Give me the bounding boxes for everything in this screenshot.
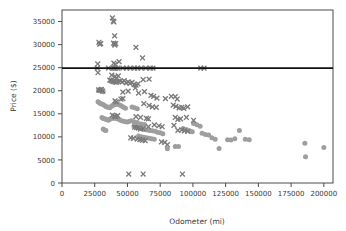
data-point-circle — [232, 136, 237, 141]
y-tick-label: 25000 — [33, 64, 55, 72]
y-tick-label: 35000 — [33, 18, 55, 26]
data-point-circle — [217, 146, 222, 151]
data-point-circle — [213, 137, 218, 142]
y-axis-title: Price ($) — [9, 80, 18, 111]
y-tick-label: 0 — [51, 180, 55, 188]
data-point-circle — [160, 131, 165, 136]
data-point-circle — [152, 137, 157, 142]
data-point-circle — [302, 141, 307, 146]
data-point-circle — [321, 145, 326, 150]
x-tick-label: 175000 — [278, 190, 305, 198]
x-tick-label: 200000 — [310, 190, 337, 198]
data-point-circle — [247, 137, 252, 142]
plot-canvas: 0250005000075000100000125000150000175000… — [0, 0, 346, 231]
x-axis-title: Odometer (mi) — [169, 217, 225, 226]
data-point-circle — [237, 128, 242, 133]
x-tick-label: 0 — [60, 190, 64, 198]
data-point-circle — [176, 144, 181, 149]
x-tick-label: 50000 — [116, 190, 138, 198]
scatter-chart: 0250005000075000100000125000150000175000… — [0, 0, 346, 231]
x-tick-label: 150000 — [245, 190, 272, 198]
x-tick-label: 100000 — [180, 190, 207, 198]
data-point-circle — [198, 124, 203, 129]
y-tick-label: 15000 — [33, 110, 55, 118]
data-point-circle — [190, 129, 195, 134]
y-tick-label: 10000 — [33, 133, 55, 141]
y-tick-label: 20000 — [33, 87, 55, 95]
x-tick-label: 75000 — [149, 190, 171, 198]
data-point-circle — [135, 106, 140, 111]
x-tick-label: 125000 — [212, 190, 239, 198]
data-point-circle — [123, 106, 128, 111]
data-point-circle — [103, 128, 108, 133]
y-tick-label: 5000 — [37, 157, 55, 165]
data-point-circle — [303, 154, 308, 159]
x-tick-label: 25000 — [84, 190, 106, 198]
y-tick-label: 30000 — [33, 41, 55, 49]
